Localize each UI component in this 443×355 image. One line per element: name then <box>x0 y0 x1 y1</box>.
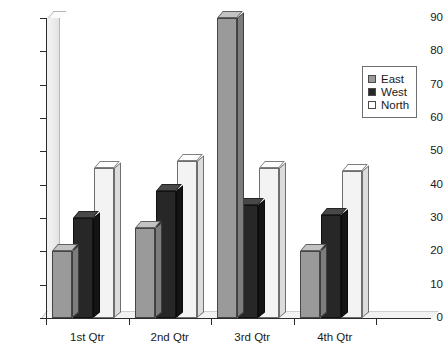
y-axis-label: 80 <box>409 46 443 58</box>
bar-side <box>155 222 162 318</box>
x-axis-tick <box>294 319 295 325</box>
east-swatch-icon <box>368 75 376 83</box>
y-axis-label: 20 <box>409 246 443 258</box>
y-axis-label: 0 <box>409 312 443 324</box>
bar-side <box>93 212 100 318</box>
west-swatch-icon <box>368 88 376 96</box>
x-axis-label: 1st Qtr <box>70 331 105 343</box>
legend-item-west: West <box>368 86 409 98</box>
x-axis-tick-origin <box>46 319 47 325</box>
x-axis-tick <box>211 319 212 325</box>
x-axis-label: 3rd Qtr <box>234 331 270 343</box>
y-axis-label: 40 <box>409 179 443 191</box>
y-axis-label: 50 <box>409 146 443 158</box>
bar-east-4 <box>300 251 320 318</box>
x-axis-label: 4th Qtr <box>317 331 352 343</box>
bar-side <box>237 12 244 318</box>
y-axis-label: 10 <box>409 279 443 291</box>
plot-area <box>46 18 376 318</box>
bar-east-1 <box>52 251 72 318</box>
bar-east-2 <box>135 228 155 318</box>
y-axis-label: 90 <box>409 12 443 24</box>
bar-side <box>176 185 183 318</box>
bar-face <box>217 18 237 318</box>
bar-side <box>114 162 121 318</box>
bar-side <box>72 245 79 318</box>
x-axis-tick <box>129 319 130 325</box>
chart-legend: East West North <box>362 66 417 118</box>
x-axis-label: 2nd Qtr <box>151 331 189 343</box>
bar-east-3 <box>217 18 237 318</box>
y-axis-label: 30 <box>409 212 443 224</box>
legend-item-north: North <box>368 99 409 111</box>
bar-face <box>135 228 155 318</box>
legend-item-east: East <box>368 73 409 85</box>
legend-label-west: West <box>381 86 407 98</box>
x-axis-tick <box>376 319 377 325</box>
bar-side <box>341 209 348 318</box>
legend-label-north: North <box>381 99 409 111</box>
x-axis-line <box>46 318 431 319</box>
bar-side <box>362 165 369 318</box>
legend-label-east: East <box>381 73 404 85</box>
bar-side <box>320 245 327 318</box>
north-swatch-icon <box>368 101 376 109</box>
bar-face <box>300 251 320 318</box>
bar-face <box>52 251 72 318</box>
bar-side <box>279 162 286 318</box>
bar-side <box>258 199 265 318</box>
bar-side <box>197 155 204 318</box>
bar-chart: 0102030405060708090 1st Qtr2nd Qtr3rd Qt… <box>0 0 443 355</box>
